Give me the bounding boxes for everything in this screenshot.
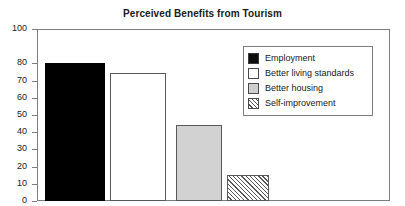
bar-better-housing	[176, 125, 222, 202]
bar-employment	[45, 63, 105, 201]
chart-title: Perceived Benefits from Tourism	[0, 8, 405, 19]
y-axis-tick-label-50: 50	[17, 109, 27, 120]
y-axis-tick-mark-20	[32, 167, 37, 168]
y-axis-tick-label-100: 100	[12, 23, 27, 34]
legend-swatch-better-living-standards-icon	[248, 68, 259, 79]
y-axis-tick-mark-30	[32, 149, 37, 150]
y-axis-tick-mark-50	[32, 115, 37, 116]
y-axis-tick-label-60: 60	[17, 92, 27, 103]
y-axis-tick-label-30: 30	[17, 143, 27, 154]
y-axis-tick-mark-100	[32, 29, 37, 30]
legend-label-self-improvement: Self-improvement	[265, 98, 336, 109]
y-axis-tick-mark-10	[32, 184, 37, 185]
y-axis-tick-label-10: 10	[17, 178, 27, 189]
legend-label-employment: Employment	[265, 53, 315, 64]
legend-label-better-housing: Better housing	[265, 83, 323, 94]
legend-swatch-employment-icon	[248, 53, 259, 64]
chart-legend: Employment Better living standards Bette…	[243, 46, 373, 116]
bar-self-improvement	[227, 175, 269, 201]
y-axis-tick-mark-0	[32, 201, 37, 202]
y-axis-tick-mark-80	[32, 63, 37, 64]
y-axis-tick-mark-60	[32, 98, 37, 99]
legend-label-better-living-standards: Better living standards	[265, 68, 354, 79]
legend-swatch-self-improvement-icon	[248, 98, 259, 109]
y-axis-tick-label-20: 20	[17, 161, 27, 172]
y-axis-tick-label-70: 70	[17, 75, 27, 86]
y-axis-tick-label-0: 0	[22, 195, 27, 206]
chart-figure: Perceived Benefits from Tourism 100 80 7…	[0, 0, 405, 206]
bar-better-living-standards	[110, 73, 166, 201]
legend-item-better-living-standards: Better living standards	[248, 66, 368, 81]
y-axis-tick-label-40: 40	[17, 126, 27, 137]
legend-item-self-improvement: Self-improvement	[248, 96, 368, 111]
y-axis-tick-mark-40	[32, 132, 37, 133]
legend-swatch-better-housing-icon	[248, 83, 259, 94]
y-axis-tick-mark-70	[32, 81, 37, 82]
y-axis-tick-label-80: 80	[17, 57, 27, 68]
legend-item-better-housing: Better housing	[248, 81, 368, 96]
legend-item-employment: Employment	[248, 51, 368, 66]
